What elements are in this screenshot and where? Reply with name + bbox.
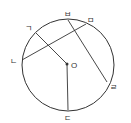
radius-o-d xyxy=(67,64,68,110)
chord-b-r xyxy=(68,20,107,82)
point-label-d: ㄷ xyxy=(64,114,71,123)
point-label-g: ㄱ xyxy=(25,24,32,33)
point-label-n: ㄴ xyxy=(10,57,17,66)
center-label: O xyxy=(71,61,77,70)
point-label-r: ㄹ xyxy=(110,83,117,92)
circle-diagram: O ㄱ ㄴ ㄷ ㄹ ㅁ ㅂ xyxy=(0,0,131,123)
center-point xyxy=(66,63,69,66)
point-label-m: ㅁ xyxy=(87,16,94,25)
point-label-b: ㅂ xyxy=(64,10,71,19)
